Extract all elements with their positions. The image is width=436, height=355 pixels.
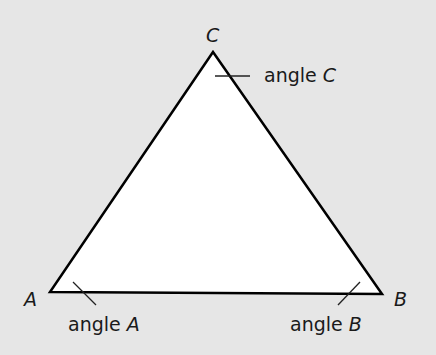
vertex-b-label: B bbox=[394, 288, 407, 310]
angle-c-label: angle C bbox=[264, 64, 337, 86]
triangle-abc bbox=[50, 52, 382, 294]
vertex-c-label: C bbox=[206, 24, 220, 46]
angle-a-label: angle A bbox=[68, 313, 140, 335]
angle-b-label: angle B bbox=[290, 313, 362, 335]
vertex-a-label: A bbox=[22, 288, 37, 310]
triangle-diagram: C A B angle C angle A angle B bbox=[0, 0, 436, 355]
